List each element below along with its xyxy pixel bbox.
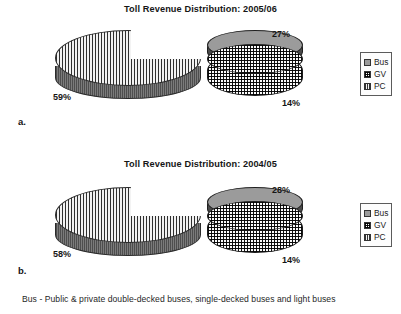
- legend-label-gv: GV: [374, 69, 386, 79]
- figure-panel-b: Toll Revenue Distribution: 2004/05 28% 1…: [0, 155, 401, 285]
- data-label-gv-b: 14%: [282, 255, 300, 265]
- legend-label-gv: GV: [374, 220, 386, 230]
- data-label-pc-a: 59%: [53, 92, 71, 102]
- pie-slice-gv-top-a: [207, 44, 303, 74]
- legend-item-bus-b[interactable]: Bus: [364, 207, 387, 219]
- panel-label-b: b.: [18, 265, 26, 276]
- legend-swatch-bus-icon: [364, 210, 371, 217]
- data-label-pc-b: 58%: [53, 249, 71, 259]
- footnote-bus-definition: Bus - Public & private double-decked bus…: [22, 294, 336, 304]
- legend-item-bus-a[interactable]: Bus: [364, 56, 387, 68]
- pie-slice-pc-a: [55, 30, 201, 100]
- legend-item-pc-a[interactable]: PC: [364, 80, 387, 92]
- legend-label-bus: Bus: [374, 208, 388, 218]
- panel-label-a: a.: [18, 116, 26, 127]
- legend-swatch-gv-icon: [364, 71, 371, 78]
- pie-slice-group-bus-gv-a: [207, 30, 303, 108]
- legend-b: Bus GV PC: [360, 203, 392, 247]
- legend-swatch-pc-icon: [364, 234, 371, 241]
- pie-slice-group-bus-gv-b: [207, 187, 303, 265]
- pie-slice-pc-b: [55, 187, 201, 257]
- pie-chart-a: 27% 14% 59%: [0, 0, 401, 130]
- figure-panel-a: Toll Revenue Distribution: 2005/06 27% 1…: [0, 0, 401, 155]
- legend-swatch-pc-icon: [364, 83, 371, 90]
- legend-swatch-gv-icon: [364, 222, 371, 229]
- legend-label-bus: Bus: [374, 57, 388, 67]
- legend-label-pc: PC: [374, 81, 386, 91]
- data-label-gv-a: 14%: [282, 98, 300, 108]
- legend-swatch-bus-icon: [364, 59, 371, 66]
- data-label-bus-a: 27%: [272, 29, 290, 39]
- legend-item-pc-b[interactable]: PC: [364, 231, 387, 243]
- legend-label-pc: PC: [374, 232, 386, 242]
- legend-item-gv-a[interactable]: GV: [364, 68, 387, 80]
- pie-slice-gv-top-b: [207, 201, 303, 231]
- data-label-bus-b: 28%: [272, 185, 290, 195]
- legend-item-gv-b[interactable]: GV: [364, 219, 387, 231]
- legend-a: Bus GV PC: [360, 52, 392, 96]
- pie-chart-b: 28% 14% 58%: [0, 155, 401, 285]
